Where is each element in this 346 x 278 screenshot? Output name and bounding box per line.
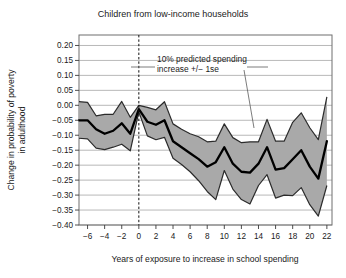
y-tick-label: −0.10 — [52, 131, 73, 140]
annotation-line-1: 10% predicted spending — [157, 54, 247, 64]
x-tick-label: 22 — [322, 232, 332, 241]
x-tick-label: 14 — [254, 232, 264, 241]
x-tick-label: 0 — [137, 232, 142, 241]
y-axis-title-line-2: in adulthood — [17, 106, 27, 153]
x-tick-label: 18 — [288, 232, 298, 241]
y-tick-label: 0.00 — [57, 101, 73, 110]
y-tick-label: −0.20 — [52, 161, 73, 170]
poverty-probability-chart: Children from low-income households 10% … — [0, 0, 346, 278]
y-tick-label: 0.05 — [57, 86, 73, 95]
y-tick-label: −0.30 — [52, 191, 73, 200]
y-tick-label: −0.35 — [52, 206, 73, 215]
x-tick-label: 6 — [188, 232, 193, 241]
x-tick-label: 10 — [220, 232, 230, 241]
y-tick-label: 0.10 — [57, 71, 73, 80]
chart-title: Children from low-income households — [98, 9, 249, 19]
y-tick-label: −0.40 — [52, 221, 73, 230]
x-tick-label: 20 — [305, 232, 315, 241]
x-tick-label: 8 — [205, 232, 210, 241]
y-axis-title-line-1: Change in probability of poverty — [6, 69, 16, 191]
x-tick-label: −4 — [100, 232, 110, 241]
y-tick-label: −0.05 — [52, 116, 73, 125]
x-tick-label: 4 — [171, 232, 176, 241]
chart-figure: Children from low-income households 10% … — [0, 0, 346, 278]
y-tick-label: 0.20 — [57, 41, 73, 50]
x-axis-title: Years of exposure to increase in school … — [112, 254, 299, 264]
y-tick-label: −0.15 — [52, 146, 73, 155]
annotation-line-2: increase +/− 1se — [157, 64, 219, 74]
x-tick-label: 2 — [154, 232, 159, 241]
x-tick-label: 16 — [271, 232, 281, 241]
x-tick-label: −2 — [117, 232, 127, 241]
x-tick-label: 12 — [237, 232, 247, 241]
x-tick-label: −6 — [83, 232, 93, 241]
y-tick-label: −0.25 — [52, 176, 73, 185]
y-tick-label: 0.15 — [57, 56, 73, 65]
